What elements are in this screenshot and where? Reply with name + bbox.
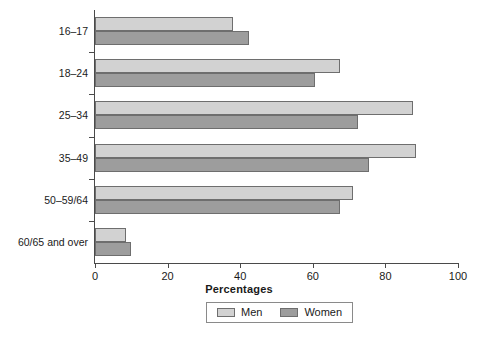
category-label: 35–49 — [0, 152, 88, 164]
bar-women — [95, 31, 249, 45]
y-axis-tick — [89, 179, 94, 180]
x-axis-tick-label: 40 — [220, 270, 260, 283]
bar-men — [95, 186, 353, 200]
bar-women — [95, 115, 358, 129]
category-label: 60/65 and over — [0, 236, 88, 248]
category-label: 16–17 — [0, 25, 88, 37]
x-axis-tick-label: 20 — [148, 270, 188, 283]
chart-legend: Men Women — [206, 302, 353, 323]
bar-women — [95, 158, 369, 172]
legend-item-women: Women — [280, 307, 342, 318]
bar-men — [95, 59, 340, 73]
bar-women — [95, 73, 315, 87]
x-axis-tick-label: 100 — [438, 270, 478, 283]
category-label: 50–59/64 — [0, 194, 88, 206]
legend-item-men: Men — [217, 307, 262, 318]
legend-label-women: Women — [304, 307, 342, 318]
x-axis-tick — [458, 263, 459, 268]
bar-men — [95, 17, 233, 31]
x-axis-tick — [313, 263, 314, 268]
x-axis-tick-label: 0 — [75, 270, 115, 283]
bar-men — [95, 144, 416, 158]
bar-women — [95, 200, 340, 214]
x-axis-tick — [385, 263, 386, 268]
x-axis-title: Percentages — [0, 283, 478, 295]
x-axis-tick-label: 60 — [293, 270, 333, 283]
category-label: 25–34 — [0, 109, 88, 121]
bar-women — [95, 242, 131, 256]
legend-swatch-men-icon — [217, 308, 235, 317]
legend-label-men: Men — [241, 307, 262, 318]
x-axis-tick — [168, 263, 169, 268]
category-label: 18–24 — [0, 67, 88, 79]
legend-swatch-women-icon — [280, 308, 298, 317]
x-axis-tick — [240, 263, 241, 268]
y-axis-line — [94, 10, 95, 264]
y-axis-tick — [89, 137, 94, 138]
bar-men — [95, 101, 413, 115]
y-axis-tick — [89, 94, 94, 95]
y-axis-tick — [89, 52, 94, 53]
x-axis-line — [94, 263, 459, 264]
x-axis-tick — [95, 263, 96, 268]
bar-chart: 020406080100 16–1718–2425–3435–4950–59/6… — [0, 0, 478, 338]
y-axis-tick — [89, 221, 94, 222]
x-axis-tick-label: 80 — [365, 270, 405, 283]
bar-men — [95, 228, 126, 242]
